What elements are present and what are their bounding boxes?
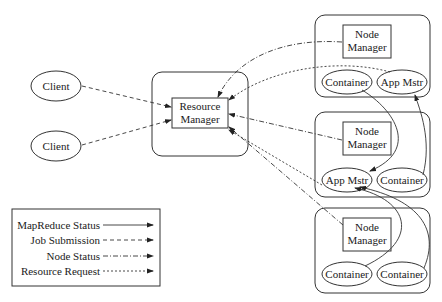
node-3-left-label: Container xyxy=(322,268,372,281)
job-submission-arrow-2 xyxy=(82,120,171,145)
node-2-nm-line1: Node xyxy=(343,125,391,138)
node-1-nm-line1: Node xyxy=(343,28,391,41)
node-3-nm-line2: Manager xyxy=(343,234,391,247)
node-2-nm-line2: Manager xyxy=(343,138,391,151)
client-label-1: Client xyxy=(31,80,81,93)
node-status-arrow-2 xyxy=(229,114,342,140)
legend-label-resource-request: Resource Request xyxy=(12,265,100,278)
node-1-right-label: App Mstr xyxy=(377,76,427,89)
job-submission-arrow-1 xyxy=(82,86,171,107)
legend-label-mapreduce-status: MapReduce Status xyxy=(12,219,100,232)
node-1-nm-line2: Manager xyxy=(343,41,391,54)
node-3-nm-line1: Node xyxy=(343,221,391,234)
resource-request-arrow-2 xyxy=(229,130,322,185)
legend-label-node-status: Node Status xyxy=(12,250,100,263)
resource-manager-label-line1: Resource xyxy=(172,100,228,113)
node-2-left-label: App Mstr xyxy=(322,174,372,187)
resource-manager-label-line2: Manager xyxy=(172,113,228,126)
node-2-right-label: Container xyxy=(377,174,427,187)
mapreduce-status-arrow-2 xyxy=(415,95,426,175)
legend-label-job-submission: Job Submission xyxy=(12,234,100,247)
node-1-left-label: Container xyxy=(322,76,372,89)
yarn-architecture-diagram: Client Client Resource Manager Node Mana… xyxy=(0,0,442,302)
client-label-2: Client xyxy=(31,140,81,153)
node-3-right-label: Container xyxy=(377,268,427,281)
